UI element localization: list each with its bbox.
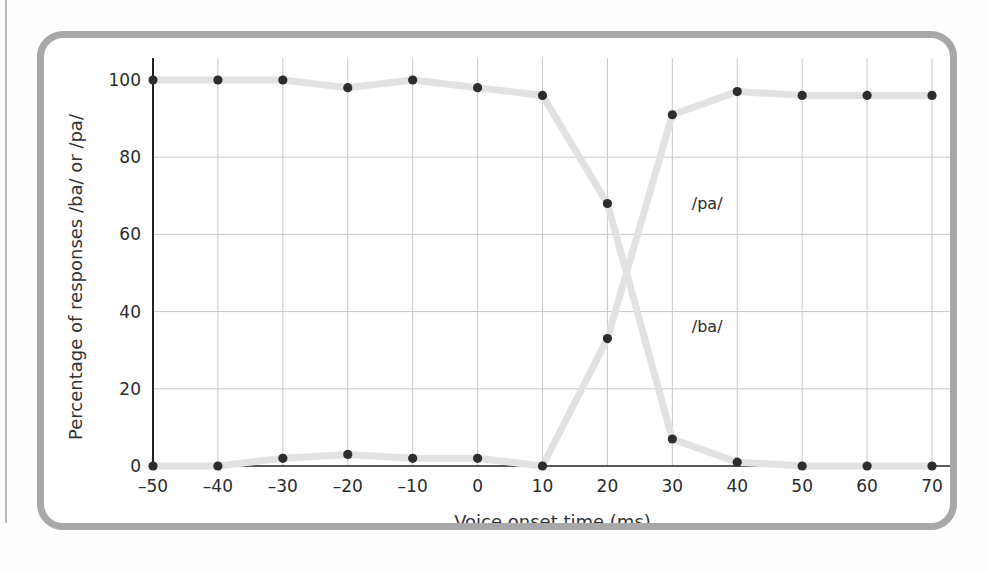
data-point <box>213 461 222 470</box>
data-point <box>473 83 482 92</box>
x-tick-label: 70 <box>921 476 943 496</box>
data-point <box>148 75 157 84</box>
x-tick-label: 40 <box>726 476 748 496</box>
data-point <box>862 91 871 100</box>
x-tick-label: 60 <box>856 476 878 496</box>
data-point <box>408 454 417 463</box>
data-point <box>798 461 807 470</box>
data-point <box>538 91 547 100</box>
data-point <box>733 87 742 96</box>
x-tick-label: 0 <box>472 476 483 496</box>
y-tick-label: 20 <box>119 379 141 399</box>
data-point <box>408 75 417 84</box>
x-tick-labels: –50–40–30–20–10010203040506070 <box>138 476 943 496</box>
gridlines <box>153 58 950 466</box>
data-point <box>927 91 936 100</box>
figure-frame: –50–40–30–20–10010203040506070 020406080… <box>37 31 957 530</box>
x-tick-label: –20 <box>333 476 363 496</box>
series-annotation: /pa/ <box>692 194 723 213</box>
identification-function-chart: –50–40–30–20–10010203040506070 020406080… <box>44 38 950 523</box>
data-point <box>798 91 807 100</box>
x-tick-label: 50 <box>791 476 813 496</box>
x-axis-title: Voice onset time (ms) <box>454 511 651 523</box>
data-point <box>148 461 157 470</box>
data-point <box>278 75 287 84</box>
y-tick-label: 0 <box>130 456 141 476</box>
data-point <box>278 454 287 463</box>
data-point <box>343 83 352 92</box>
y-tick-label: 80 <box>119 147 141 167</box>
data-point <box>343 450 352 459</box>
data-point <box>213 75 222 84</box>
data-point <box>862 461 871 470</box>
data-point <box>668 434 677 443</box>
data-point <box>473 454 482 463</box>
data-point <box>668 110 677 119</box>
x-tick-label: –30 <box>268 476 298 496</box>
x-tick-label: –50 <box>138 476 168 496</box>
y-tick-label: 40 <box>119 302 141 322</box>
axes <box>153 58 950 466</box>
data-point <box>538 461 547 470</box>
y-tick-labels: 020406080100 <box>109 70 141 476</box>
data-point <box>603 199 612 208</box>
x-tick-label: 10 <box>532 476 554 496</box>
x-tick-label: 30 <box>662 476 684 496</box>
data-point <box>927 461 936 470</box>
page-margin-rule <box>5 0 7 523</box>
y-axis-title: Percentage of responses /ba/ or /pa/ <box>65 113 86 440</box>
series-annotation: /ba/ <box>692 317 723 336</box>
x-tick-label: –10 <box>398 476 428 496</box>
x-tick-label: –40 <box>203 476 233 496</box>
data-point <box>603 334 612 343</box>
x-tick-label: 20 <box>597 476 619 496</box>
y-tick-label: 60 <box>119 224 141 244</box>
y-tick-label: 100 <box>109 70 141 90</box>
figure-page: –50–40–30–20–10010203040506070 020406080… <box>0 0 988 571</box>
data-point <box>733 458 742 467</box>
series-annotations: /pa//ba/ <box>692 194 723 337</box>
